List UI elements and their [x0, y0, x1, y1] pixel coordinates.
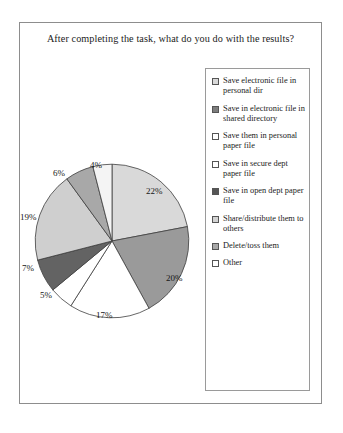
legend-swatch-icon [212, 106, 219, 113]
legend-item: Save them in personal paper file [212, 131, 305, 152]
legend-item-label: Save them in personal paper file [223, 131, 305, 152]
legend-item-label: Save in secure dept paper file [223, 159, 305, 180]
legend-item-label: Save in open dept paper file [223, 186, 305, 207]
legend-item: Share/distribute them to others [212, 214, 305, 235]
legend-swatch-icon [212, 243, 219, 250]
pie-value-label: 17% [96, 311, 113, 320]
legend-swatch-icon [212, 161, 219, 168]
legend-item: Save in secure dept paper file [212, 159, 305, 180]
figure-frame: After completing the task, what do you d… [19, 22, 322, 404]
legend-item-label: Share/distribute them to others [223, 214, 305, 235]
legend-swatch-icon [212, 188, 219, 195]
legend-item: Save in open dept paper file [212, 186, 305, 207]
pie-chart-area: 22%20%17%5%7%19%6%4% [20, 63, 205, 393]
pie-value-label: 22% [146, 187, 163, 196]
page-title: After completing the task, what do you d… [20, 33, 321, 45]
legend-item-label: Save electronic file in personal dir [223, 76, 305, 97]
pie-value-label: 4% [90, 161, 102, 170]
legend-swatch-icon [212, 78, 219, 85]
pie-chart [32, 161, 192, 321]
pie-value-label: 6% [53, 169, 65, 178]
legend-item: Save in electronic file in shared direct… [212, 104, 305, 125]
pie-value-label: 7% [22, 264, 34, 273]
pie-value-label: 5% [40, 291, 52, 300]
legend-item: Save electronic file in personal dir [212, 76, 305, 97]
legend-item: Delete/toss them [212, 241, 305, 251]
legend-item-label: Save in electronic file in shared direct… [223, 104, 305, 125]
chart-legend: Save electronic file in personal dirSave… [205, 68, 310, 391]
legend-item-label: Other [223, 258, 242, 268]
pie-value-label: 20% [166, 274, 183, 283]
legend-item-label: Delete/toss them [223, 241, 279, 251]
legend-swatch-icon [212, 260, 219, 267]
legend-swatch-icon [212, 216, 219, 223]
legend-swatch-icon [212, 133, 219, 140]
legend-item: Other [212, 258, 305, 268]
pie-value-label: 19% [20, 213, 37, 222]
